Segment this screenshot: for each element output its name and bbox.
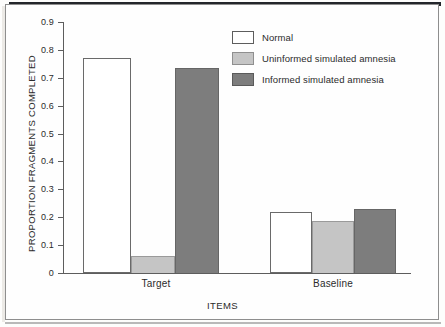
legend-label: Normal	[262, 32, 293, 43]
legend-swatch-uninformed	[232, 52, 254, 65]
bar-target-informed	[175, 68, 219, 273]
y-axis-tick	[58, 134, 64, 135]
y-axis-tick	[58, 273, 64, 274]
legend-swatch-normal	[232, 31, 254, 44]
chart-legend: NormalUninformed simulated amnesiaInform…	[232, 28, 396, 91]
y-axis-tick-label: 0.9	[4, 17, 54, 27]
bar-target-uninformed	[131, 256, 175, 273]
legend-item: Normal	[232, 28, 396, 47]
legend-label: Informed simulated amnesia	[262, 74, 384, 85]
y-axis-tick	[58, 217, 64, 218]
y-axis-tick	[58, 245, 64, 246]
bar-target-normal	[83, 58, 131, 273]
x-axis-group-label-target: Target	[142, 278, 171, 289]
legend-label: Uninformed simulated amnesia	[262, 53, 396, 64]
legend-swatch-informed	[232, 73, 254, 86]
x-axis-line	[63, 273, 411, 274]
y-axis-tick	[58, 189, 64, 190]
bar-baseline-normal	[270, 212, 312, 273]
x-axis-group-label-baseline: Baseline	[313, 278, 353, 289]
y-axis-title: PROPORTION FRAGMENTS COMPLETED	[26, 39, 37, 269]
y-axis-tick	[58, 106, 64, 107]
legend-item: Informed simulated amnesia	[232, 70, 396, 89]
bar-baseline-informed	[354, 209, 396, 273]
x-axis-title: ITEMS	[0, 300, 445, 311]
y-axis-tick-label: 0	[4, 268, 54, 278]
y-axis-tick	[58, 161, 64, 162]
y-axis-tick	[58, 78, 64, 79]
y-axis-tick	[58, 50, 64, 51]
y-axis-line	[63, 22, 64, 274]
page-bottom-shadow	[5, 322, 441, 324]
bar-baseline-uninformed	[312, 221, 354, 273]
figure-root: 0.90.80.70.60.50.40.30.20.10 TargetBasel…	[0, 0, 445, 327]
legend-item: Uninformed simulated amnesia	[232, 49, 396, 68]
y-axis-tick	[58, 22, 64, 23]
